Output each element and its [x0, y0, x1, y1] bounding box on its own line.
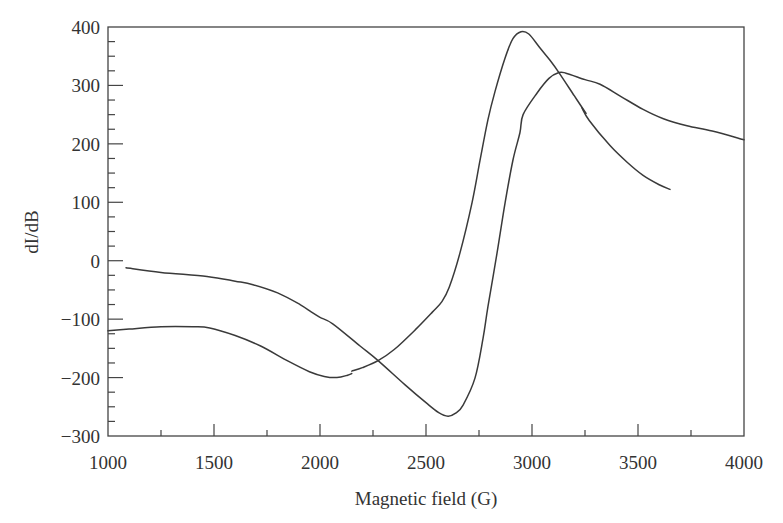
y-tick-label: 0 [91, 251, 101, 272]
x-axis-tick-labels: 1000150020002500300035004000 [89, 452, 763, 473]
y-tick-label: 100 [72, 192, 101, 213]
y-axis-title: dI/dB [21, 210, 42, 253]
axes-layer: 1000150020002500300035004000 −300−200−10… [61, 17, 763, 473]
x-axis-ticks [161, 424, 691, 436]
y-tick-label: −200 [61, 368, 100, 389]
chart-canvas: 1000150020002500300035004000 −300−200−10… [0, 0, 783, 523]
x-tick-label: 3500 [619, 452, 657, 473]
y-tick-label: −300 [61, 426, 100, 447]
x-tick-label: 3000 [513, 452, 551, 473]
y-tick-label: 200 [72, 134, 101, 155]
x-tick-label: 2000 [301, 452, 339, 473]
line-segment [582, 108, 670, 190]
series-curve-2 [126, 72, 744, 416]
line-segment [126, 72, 744, 416]
y-axis-ticks [108, 42, 123, 422]
x-tick-label: 1000 [89, 452, 127, 473]
x-tick-label: 2500 [407, 452, 445, 473]
series-curve-1 [108, 31, 670, 377]
y-tick-label: −100 [61, 309, 100, 330]
line-segment [108, 327, 352, 378]
y-axis-tick-labels: −300−200−1000100200300400 [61, 17, 100, 447]
y-tick-label: 300 [72, 75, 101, 96]
x-tick-label: 1500 [195, 452, 233, 473]
plot-frame [108, 27, 744, 436]
line-segment [352, 31, 586, 371]
y-tick-label: 400 [72, 17, 101, 38]
x-axis-title: Magnetic field (G) [355, 488, 497, 510]
series-layer [108, 31, 744, 416]
x-tick-label: 4000 [725, 452, 763, 473]
